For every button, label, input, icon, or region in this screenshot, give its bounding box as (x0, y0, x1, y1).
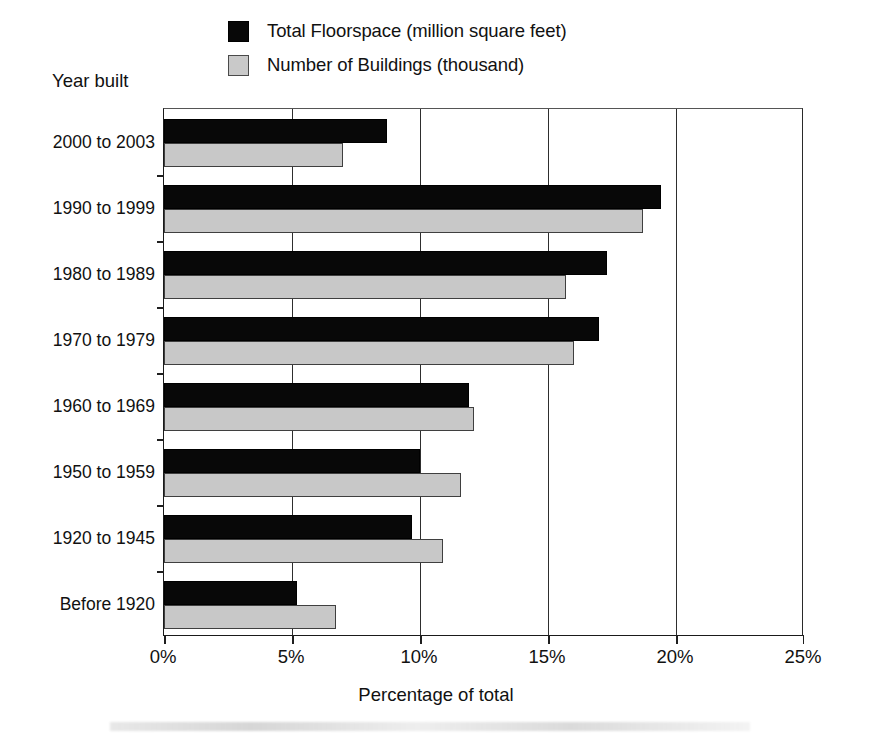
x-axis-label-15pct: 15% (507, 646, 587, 668)
x-tick-5pct (292, 635, 294, 644)
scan-artifact (110, 722, 750, 731)
x-tick-25pct (803, 635, 805, 644)
legend-swatch-total-floorspace (228, 21, 249, 42)
y-tick-2 (157, 307, 164, 309)
bar-number-of-buildings (164, 539, 443, 563)
y-axis-title: Year built (52, 70, 128, 92)
x-axis-title: Percentage of total (0, 684, 872, 706)
y-tick-5 (157, 505, 164, 507)
bar-total-floorspace (164, 119, 387, 143)
x-tick-20pct (676, 635, 678, 644)
bar-number-of-buildings (164, 473, 461, 497)
legend-item-total-floorspace: Total Floorspace (million square feet) (228, 14, 688, 48)
x-tick-0pct (164, 635, 166, 644)
x-axis-label-10pct: 10% (379, 646, 459, 668)
y-axis-category-1980-to-1989: 1980 to 1989 (0, 264, 155, 285)
legend-item-number-of-buildings: Number of Buildings (thousand) (228, 48, 688, 82)
gridline-20pct (676, 109, 677, 635)
bar-number-of-buildings (164, 605, 336, 629)
x-tick-10pct (420, 635, 422, 644)
bar-number-of-buildings (164, 341, 574, 365)
x-tick-15pct (548, 635, 550, 644)
bar-number-of-buildings (164, 275, 566, 299)
y-axis-category-2000-to-2003: 2000 to 2003 (0, 132, 155, 153)
y-tick-1 (157, 241, 164, 243)
legend-label-number-of-buildings: Number of Buildings (thousand) (267, 54, 524, 76)
y-tick-0 (157, 175, 164, 177)
y-axis-category-1920-to-1945: 1920 to 1945 (0, 528, 155, 549)
x-axis-label-20pct: 20% (635, 646, 715, 668)
legend-label-total-floorspace: Total Floorspace (million square feet) (267, 20, 567, 42)
plot-area (163, 108, 803, 636)
y-axis-category-labels: 2000 to 20031990 to 19991980 to 19891970… (0, 108, 155, 636)
y-tick-3 (157, 373, 164, 375)
y-axis-category-1990-to-1999: 1990 to 1999 (0, 198, 155, 219)
x-axis-label-5pct: 5% (251, 646, 331, 668)
bar-number-of-buildings (164, 407, 474, 431)
y-axis-category-1950-to-1959: 1950 to 1959 (0, 462, 155, 483)
bar-total-floorspace (164, 185, 661, 209)
y-axis-category-1960-to-1969: 1960 to 1969 (0, 396, 155, 417)
bar-total-floorspace (164, 383, 469, 407)
y-axis-category-1970-to-1979: 1970 to 1979 (0, 330, 155, 351)
x-axis-label-25pct: 25% (763, 646, 843, 668)
chart-legend: Total Floorspace (million square feet) N… (228, 14, 688, 82)
y-axis-category-before-1920: Before 1920 (0, 594, 155, 615)
bar-total-floorspace (164, 251, 607, 275)
bar-total-floorspace (164, 515, 412, 539)
legend-swatch-number-of-buildings (228, 55, 249, 76)
bar-number-of-buildings (164, 209, 643, 233)
bar-total-floorspace (164, 581, 297, 605)
y-tick-4 (157, 439, 164, 441)
y-tick-6 (157, 571, 164, 573)
bar-number-of-buildings (164, 143, 343, 167)
bar-total-floorspace (164, 317, 599, 341)
bar-total-floorspace (164, 449, 420, 473)
x-axis-label-0pct: 0% (123, 646, 203, 668)
